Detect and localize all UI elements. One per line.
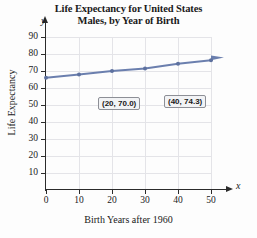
data-label-callout: (40, 74.3) [164,95,206,108]
chart-figure: Life Expectancy for United States Males,… [0,0,257,238]
x-axis-title: Birth Years after 1960 [0,214,257,225]
data-label-callout: (20, 70.0) [98,97,140,110]
y-axis-title: Life Expectancy [6,53,17,153]
data-series-line [0,0,257,238]
